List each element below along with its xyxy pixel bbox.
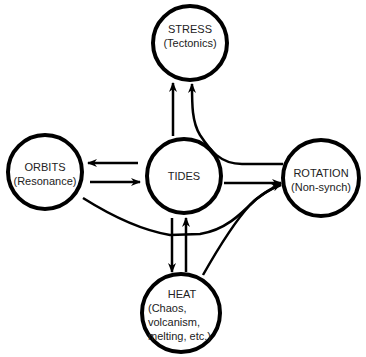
node-rotation-title: ROTATION	[281, 166, 361, 180]
node-rotation-label: ROTATION (Non-synch)	[281, 166, 361, 194]
node-tides-label: TIDES	[144, 169, 224, 183]
node-heat-subtitle-line-3: melting, etc.)	[148, 329, 220, 343]
node-stress-title: STRESS	[150, 22, 230, 36]
node-rotation-subtitle: (Non-synch)	[281, 180, 361, 194]
node-stress-label: STRESS (Tectonics)	[150, 22, 230, 50]
node-heat-title: HEAT	[148, 287, 220, 301]
edge-rotation-to-stress	[192, 84, 283, 164]
node-tides-title: TIDES	[144, 169, 224, 183]
node-heat-label: HEAT (Chaos, volcanism, melting, etc.)	[148, 287, 220, 343]
node-heat-subtitle-line-1: (Chaos,	[148, 301, 220, 315]
edge-orbits-to-rotation	[83, 184, 281, 235]
node-stress-subtitle: (Tectonics)	[150, 36, 230, 50]
node-orbits-label: ORBITS (Resonance)	[5, 160, 85, 188]
node-heat-subtitle-line-2: volcanism,	[148, 315, 220, 329]
node-orbits-title: ORBITS	[5, 160, 85, 174]
node-orbits-subtitle: (Resonance)	[5, 174, 85, 188]
